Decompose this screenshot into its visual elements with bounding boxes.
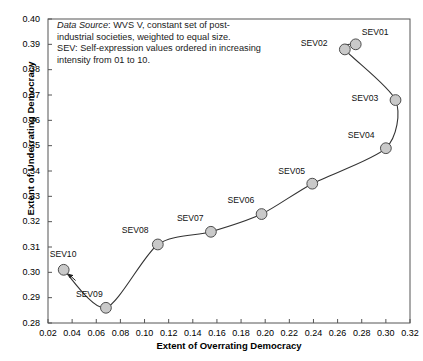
data-point-sev03 bbox=[390, 95, 401, 106]
data-point-sev02 bbox=[339, 44, 350, 55]
data-point-sev04 bbox=[380, 143, 391, 154]
data-point-sev05 bbox=[307, 178, 318, 189]
point-label-sev07: SEV07 bbox=[177, 214, 204, 223]
data-point-sev10 bbox=[58, 264, 69, 275]
point-label-sev10: SEV10 bbox=[50, 250, 77, 259]
data-point-sev01 bbox=[350, 39, 361, 50]
point-label-sev08: SEV08 bbox=[122, 226, 149, 235]
point-label-sev05: SEV05 bbox=[278, 167, 305, 176]
point-label-sev04: SEV04 bbox=[348, 131, 375, 140]
point-label-sev06: SEV06 bbox=[228, 196, 255, 205]
data-point-sev06 bbox=[256, 209, 267, 220]
axis-frame bbox=[48, 19, 410, 323]
data-point-sev08 bbox=[152, 239, 163, 250]
point-label-sev01: SEV01 bbox=[362, 28, 389, 37]
data-point-sev07 bbox=[206, 226, 217, 237]
series-line bbox=[64, 44, 398, 308]
point-label-sev03: SEV03 bbox=[352, 94, 379, 103]
data-point-markers bbox=[58, 39, 401, 313]
point-label-sev02: SEV02 bbox=[301, 39, 328, 48]
point-label-sev09: SEV09 bbox=[76, 290, 103, 299]
data-point-sev09 bbox=[101, 302, 112, 313]
